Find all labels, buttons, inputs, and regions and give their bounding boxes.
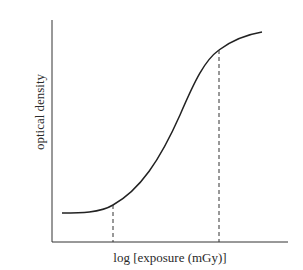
x-axis-label: log [exposure (mGy)] [113,250,226,265]
y-axis-label: optical density [32,73,47,150]
data-curve [62,32,262,213]
characteristic-curve-chart: optical density log [exposure (mGy)] [0,0,303,270]
